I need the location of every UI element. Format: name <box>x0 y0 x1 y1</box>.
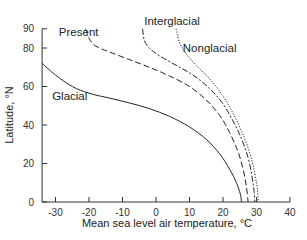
y-tick-label: 90 <box>23 23 35 34</box>
x-tick-label: 40 <box>284 207 296 218</box>
y-tick-label: 40 <box>23 120 35 131</box>
series-line-interglacial <box>143 29 255 202</box>
y-tick-label: 80 <box>23 43 35 54</box>
series-line-glacial <box>42 63 241 202</box>
axes: -30-20-1001020304002040608090 <box>23 23 296 218</box>
y-axis-title: Latitude, °N <box>3 86 15 144</box>
x-tick-label: -30 <box>48 207 63 218</box>
x-tick-label: 30 <box>251 207 263 218</box>
series-group <box>42 29 258 202</box>
y-tick-label: 0 <box>29 197 35 208</box>
series-label-present: Present <box>59 26 99 38</box>
series-line-nonglacial <box>176 29 258 202</box>
latitude-temperature-chart: -30-20-1001020304002040608090 GlacialPre… <box>0 0 307 240</box>
x-axis-title: Mean sea level air temperature, °C <box>82 217 252 229</box>
y-tick-label: 20 <box>23 158 35 169</box>
series-label-interglacial: Interglacial <box>144 15 200 27</box>
series-label-glacial: Glacial <box>52 90 87 102</box>
series-label-nonglacial: Nonglacial <box>183 42 237 54</box>
y-tick-label: 60 <box>23 81 35 92</box>
series-labels: GlacialPresentInterglacialNonglacial <box>52 15 236 102</box>
